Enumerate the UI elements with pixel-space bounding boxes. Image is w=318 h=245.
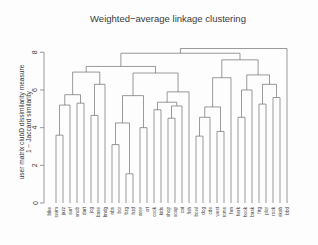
leaf-label: nbs: [110, 206, 115, 214]
dendrogram-link: [168, 118, 175, 203]
leaf-label: kids: [159, 206, 164, 215]
leaf-label: shop: [166, 207, 171, 217]
dendrogram-link: [167, 92, 189, 203]
y-tick-label: 8: [32, 50, 39, 54]
y-axis-label: user matrix clubD dissimilarity measure1…: [18, 64, 33, 179]
dendrogram-link: [205, 107, 221, 131]
dendrogram-link: [200, 117, 211, 203]
y-tick-label: 2: [31, 163, 38, 167]
dendrogram-link: [154, 110, 161, 203]
leaf-labels: bikeswimjazzsurfsnobdartjogbasebndgnbsbc…: [47, 206, 290, 217]
leaf-label: bbd: [285, 207, 290, 215]
leaf-label: cde: [208, 207, 213, 215]
y-tick-label: 4: [32, 126, 39, 130]
leaf-label: ekah: [278, 207, 283, 217]
leaf-label: bask: [250, 206, 255, 216]
leaf-label: dog: [201, 207, 206, 215]
plot-title: Weighted−average linkage clustering: [90, 13, 246, 24]
dendrogram-link: [259, 104, 266, 203]
leaf-label: soap: [173, 207, 178, 217]
dendrogram-link: [133, 73, 178, 96]
leaf-label: cat: [180, 206, 185, 213]
dendrogram-link: [126, 174, 133, 203]
dendrogram-plot: 02468bikeswimjazzsurfsnobdartjogbasebndg…: [0, 0, 318, 245]
leaf-label: bcr: [117, 207, 122, 214]
leaf-label: bndg: [103, 207, 108, 218]
dendrogram-link: [172, 106, 183, 203]
dendrogram-link: [196, 136, 203, 203]
leaf-label: roms: [222, 206, 227, 217]
leaf-label: hzd: [131, 207, 136, 215]
dendrogram-link: [238, 117, 245, 203]
leaf-label: crt: [145, 206, 150, 212]
y-axis-label-line: 1 − Jaccard similarity: [25, 90, 33, 152]
leaf-label: frtg: [257, 207, 262, 214]
leaf-label: arev: [138, 206, 143, 216]
dendrogram-link: [273, 98, 280, 203]
leaf-label: rock: [271, 206, 276, 215]
leaf-label: bzg: [124, 207, 129, 215]
dendrogram-link: [112, 145, 119, 203]
leaf-label: dart: [82, 206, 87, 215]
y-axis: [40, 52, 44, 203]
leaf-label: herk: [236, 206, 241, 216]
y-tick-label: 6: [31, 88, 38, 92]
leaf-label: snob: [75, 207, 80, 217]
leaf-label: jazz: [61, 206, 66, 216]
leaf-label: fish: [187, 207, 192, 215]
leaf-label: jog: [89, 207, 94, 215]
dendrogram-link: [77, 103, 84, 203]
leaf-label: surf: [68, 206, 73, 214]
dendrogram-link: [263, 84, 277, 104]
leaf-label: swim: [54, 207, 59, 218]
dendrogram-link: [217, 131, 224, 203]
dendrogram-link: [180, 49, 287, 203]
y-tick-labels: 02468: [31, 50, 38, 205]
leaf-label: base: [96, 207, 101, 217]
leaf-label: hrn: [229, 207, 234, 214]
dendrogram-link: [56, 135, 63, 203]
leaf-label: plor: [264, 207, 269, 215]
dendrogram-link: [247, 75, 270, 90]
dendrogram-link: [95, 84, 106, 203]
leaf-label: west: [215, 206, 220, 216]
dendrogram-link: [140, 128, 147, 203]
dendrogram-link: [73, 72, 100, 95]
dendrogram-link: [242, 90, 253, 203]
dendrogram-link: [60, 105, 71, 203]
dendrogram-link: [213, 78, 231, 203]
leaf-label: hook: [243, 206, 248, 217]
leaf-label: cook: [152, 206, 157, 216]
dendrogram-branches: [56, 49, 287, 203]
leaf-label: bowl: [194, 207, 199, 216]
dendrogram-link: [91, 115, 98, 203]
leaf-label: bike: [47, 207, 52, 216]
dendrogram-link: [116, 123, 130, 174]
y-tick-label: 0: [32, 201, 39, 205]
dendrogram-figure: 02468bikeswimjazzsurfsnobdartjogbasebndg…: [0, 0, 318, 245]
